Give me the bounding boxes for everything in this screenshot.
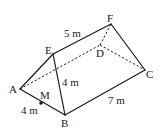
edge-AE	[20, 54, 53, 89]
point-label-M: M	[40, 89, 50, 101]
measure-EB: 4 m	[62, 76, 79, 88]
vertex-label-E: E	[45, 44, 52, 56]
vertex-label-F: F	[107, 12, 113, 24]
edge-FC	[111, 24, 145, 70]
edge-AD	[20, 45, 100, 89]
measure-BC: 7 m	[108, 94, 125, 106]
point-M-dot	[39, 101, 43, 105]
vertex-label-A: A	[9, 83, 17, 95]
measure-EF: 5 m	[64, 27, 81, 39]
vertex-label-C: C	[146, 68, 153, 80]
measure-AB: 4 m	[21, 104, 38, 116]
edge-DC	[100, 45, 145, 70]
vertex-label-B: B	[61, 117, 68, 129]
prism-diagram: A B C D E F M 5 m 4 m 7 m 4 m	[0, 0, 161, 130]
vertex-label-D: D	[96, 47, 104, 59]
